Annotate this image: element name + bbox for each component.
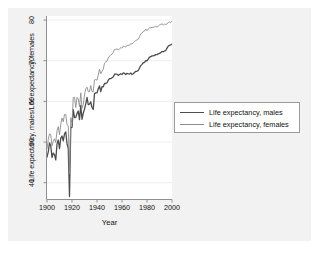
y-tick-label: 40 [27, 173, 37, 193]
y-tick-label: 70 [27, 51, 37, 71]
legend-label-males: Life expectancy, males [209, 108, 283, 117]
series-line-life-expectancy-males [47, 44, 172, 197]
y-tick-label: 60 [27, 91, 37, 111]
gridlines [47, 20, 172, 183]
legend-key-females [179, 119, 205, 129]
series-line-life-expectancy-females [47, 21, 172, 174]
figure-root: Life expectancy, males/Life expectancy, … [0, 0, 321, 254]
y-tick-label: 50 [27, 132, 37, 152]
chart-canvas [47, 16, 172, 199]
legend-item: Life expectancy, males [179, 106, 295, 118]
plot-region [47, 16, 172, 199]
series-lines [47, 21, 172, 196]
y-tick-label: 80 [27, 10, 37, 30]
chart-legend[interactable]: Life expectancy, males Life expectancy, … [174, 102, 300, 133]
legend-label-females: Life expectancy, females [209, 120, 289, 129]
x-axis-title: Year [47, 218, 172, 227]
legend-item: Life expectancy, females [179, 118, 295, 130]
x-tick-label: 2000 [157, 203, 187, 213]
legend-key-males [179, 107, 205, 117]
